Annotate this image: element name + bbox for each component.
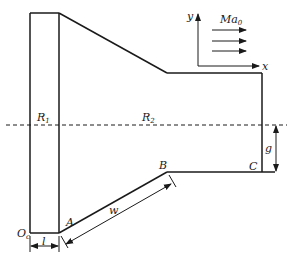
w-dimension [61,175,176,248]
geometry-diagram: R1 R2 A B C w g l Oc y x Ma0 [0,0,290,263]
upper-contour [59,13,262,172]
label-r2: R2 [141,111,155,125]
label-oc: Oc [17,227,30,241]
label-r1: R1 [36,111,50,125]
label-ma0: Ma0 [219,13,243,27]
lower-contour [59,172,275,233]
label-l: l [42,235,46,248]
w-dimension-arrow-icon [66,184,171,244]
label-y: y [186,10,194,23]
label-a: A [65,216,74,229]
label-g: g [265,142,272,155]
freestream-arrows [212,30,246,51]
label-x: x [262,60,269,73]
label-w: w [109,204,119,217]
label-c: C [249,160,258,173]
label-b: B [158,159,167,172]
